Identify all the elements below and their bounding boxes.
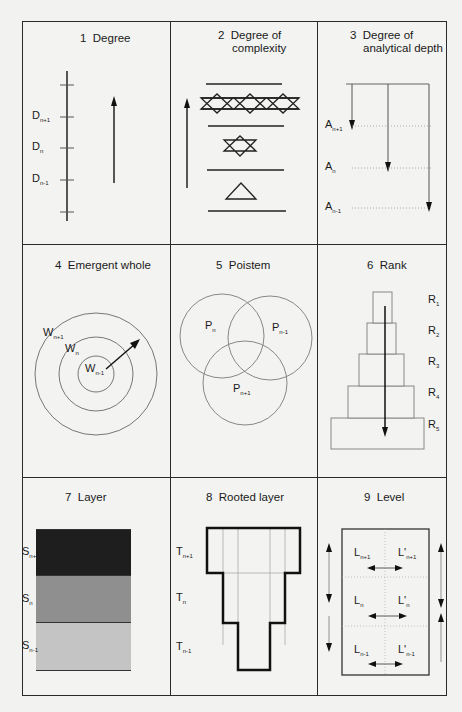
- label-t-n-minus-1: Tn-1: [176, 640, 191, 654]
- label-r-3: R3: [428, 355, 439, 369]
- label-w-n-minus-1: Wn-1: [85, 362, 104, 376]
- hexagram-icon: [224, 136, 256, 156]
- arrow-down-icon: [426, 202, 432, 212]
- panel-degree: 1 Degree Dn+1 Dn Dn-1: [22, 21, 170, 244]
- panel-degree-of-analytical-depth: 3 Degree of analytical depth An+1 An An-…: [317, 21, 447, 244]
- arrow-up-icon: [184, 98, 190, 108]
- label-l-n-minus-1: Ln-1: [354, 643, 369, 657]
- label-s-n-plus-1: Sn+1: [22, 545, 40, 559]
- layer-s-n-minus-1: [36, 622, 131, 671]
- panel-rooted-layer: 8 Rooted layer Tn+1 Tn Tn-1: [170, 477, 317, 696]
- hexagram-row-icon: [201, 94, 299, 113]
- rooted-layer-outline: [207, 528, 300, 670]
- layer-s-n: [36, 575, 131, 623]
- label-d-n-plus-1: Dn+1: [32, 109, 50, 123]
- arrow-down-icon: [385, 162, 391, 172]
- label-w-n: Wn: [65, 342, 79, 356]
- arrow-up-icon: [111, 96, 117, 106]
- label-d-n: Dn: [32, 140, 43, 154]
- panel-layer: 7 Layer Sn+1 Sn Sn-1: [22, 477, 170, 696]
- label-p-n-plus-1: Pn+1: [233, 382, 251, 396]
- panel-level: 9 Level: [317, 477, 447, 696]
- degree-scale-diagram: [22, 21, 170, 244]
- complexity-diagram: [170, 21, 317, 244]
- label-l-prime-n-minus-1: L'n-1: [398, 643, 415, 657]
- panel-title: 7 Layer: [65, 491, 107, 503]
- arrow-down-icon: [349, 120, 355, 130]
- label-r-1: R1: [428, 293, 439, 307]
- label-r-2: R2: [428, 324, 439, 338]
- label-a-n-minus-1: An-1: [325, 200, 341, 214]
- label-a-n-plus-1: An+1: [325, 118, 343, 132]
- triangle-icon: [226, 183, 256, 199]
- rooted-layer-diagram: [170, 477, 317, 696]
- level-diagram: [317, 477, 447, 696]
- label-w-n-plus-1: Wn+1: [43, 326, 64, 340]
- panel-emergent-whole: 4 Emergent whole Wn+1 Wn Wn-1: [22, 244, 170, 477]
- panel-degree-of-complexity: 2 Degree of complexity: [170, 21, 317, 244]
- label-l-n: Ln: [354, 594, 363, 608]
- label-a-n: An: [325, 160, 336, 174]
- poistem-venn-diagram: [170, 244, 317, 477]
- label-t-n: Tn: [176, 591, 186, 605]
- panel-rank: 6 Rank R1 R2 R3 R4 R5: [317, 244, 447, 477]
- label-s-n: Sn: [22, 592, 33, 606]
- label-t-n-plus-1: Tn+1: [176, 545, 193, 559]
- panel-poistem: 5 Poistem Pn Pn-1 Pn+1: [170, 244, 317, 477]
- label-p-n: Pn: [205, 319, 216, 333]
- label-r-5: R5: [428, 418, 439, 432]
- label-l-prime-n: L'n: [398, 594, 410, 608]
- label-p-n-minus-1: Pn-1: [272, 321, 288, 335]
- label-l-prime-n-plus-1: L'n+1: [398, 546, 416, 560]
- label-s-n-minus-1: Sn-1: [22, 639, 38, 653]
- label-l-n-plus-1: Ln+1: [354, 546, 370, 560]
- label-r-4: R4: [428, 386, 439, 400]
- layer-s-n-plus-1: [36, 529, 131, 576]
- emergent-whole-diagram: [22, 244, 170, 477]
- label-d-n-minus-1: Dn-1: [32, 172, 49, 186]
